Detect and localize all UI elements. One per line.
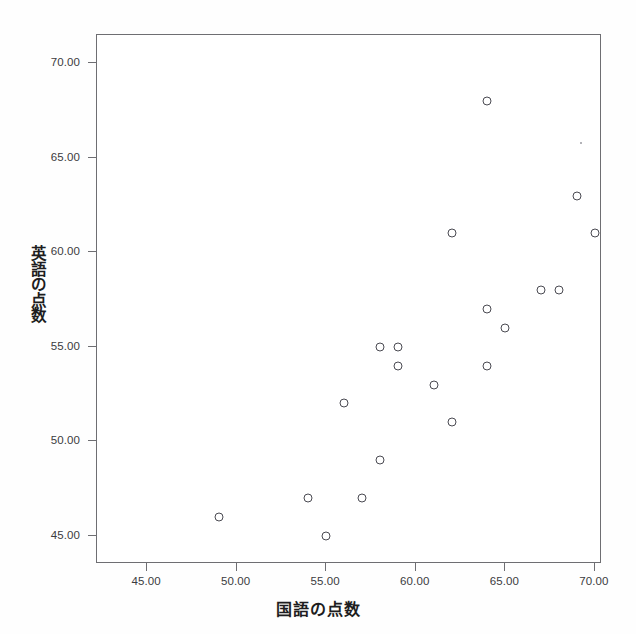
y-axis-tick-label: 55.00: [38, 340, 80, 352]
y-axis-tick-label: 70.00: [38, 56, 80, 68]
data-point: [572, 191, 581, 200]
plot-area: [97, 35, 600, 562]
x-axis-tick: [236, 563, 237, 571]
x-axis-tick: [594, 563, 595, 571]
x-axis-tick: [325, 563, 326, 571]
data-point: [590, 229, 599, 238]
data-point: [483, 97, 492, 106]
y-axis-tick: [88, 62, 96, 63]
x-axis-tick-label: 45.00: [132, 575, 161, 587]
scan-artifact-speck: [580, 142, 582, 144]
data-point: [393, 361, 402, 370]
y-axis-tick-label: 45.00: [38, 529, 80, 541]
y-axis-tick: [88, 346, 96, 347]
x-axis-tick-label: 65.00: [490, 575, 519, 587]
data-point: [340, 399, 349, 408]
scatter-plot-figure: 45.0050.0055.0060.0065.0070.0045.0050.00…: [0, 0, 636, 634]
data-point: [483, 304, 492, 313]
y-axis-tick: [88, 440, 96, 441]
data-point: [304, 493, 313, 502]
y-axis-title-char: の: [28, 277, 50, 293]
data-point: [322, 531, 331, 540]
data-point: [501, 323, 510, 332]
data-point: [375, 456, 384, 465]
data-point: [358, 493, 367, 502]
data-point: [483, 361, 492, 370]
y-axis-title: 英語の点数: [28, 246, 50, 324]
data-point: [393, 342, 402, 351]
data-point: [447, 229, 456, 238]
y-axis-title-char: 語: [28, 262, 50, 278]
y-axis-tick-label: 65.00: [38, 151, 80, 163]
y-axis-tick: [88, 157, 96, 158]
x-axis-tick-label: 55.00: [311, 575, 340, 587]
x-axis-tick-label: 70.00: [579, 575, 608, 587]
y-axis-tick-label: 50.00: [38, 434, 80, 446]
data-point: [429, 380, 438, 389]
y-axis-title-char: 数: [28, 308, 50, 324]
x-axis-tick: [504, 563, 505, 571]
y-axis-tick: [88, 535, 96, 536]
x-axis-tick-label: 60.00: [400, 575, 429, 587]
data-point: [537, 286, 546, 295]
x-axis-title: 国語の点数: [0, 596, 636, 620]
plot-frame: [96, 34, 601, 563]
y-axis-title-char: 英: [28, 246, 50, 262]
x-axis-tick: [146, 563, 147, 571]
y-axis-title-char: 点: [28, 293, 50, 309]
data-point: [555, 286, 564, 295]
y-axis-tick: [88, 251, 96, 252]
data-point: [375, 342, 384, 351]
x-axis-tick: [415, 563, 416, 571]
x-axis-tick-label: 50.00: [221, 575, 250, 587]
data-point: [214, 512, 223, 521]
data-point: [447, 418, 456, 427]
